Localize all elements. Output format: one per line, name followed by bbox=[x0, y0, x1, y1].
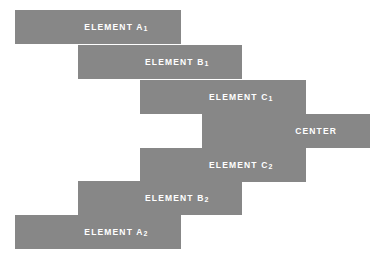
bar-subscript-element-a2: 2 bbox=[144, 227, 149, 237]
bar-label-element-a1: ELEMENT A bbox=[84, 23, 143, 32]
bar-element-a1: ELEMENT A1 bbox=[15, 10, 181, 44]
bar-subscript-value-element-c1: 1 bbox=[269, 95, 274, 102]
bar-element-b1: ELEMENT B1 bbox=[78, 45, 242, 79]
bar-element-a2: ELEMENT A2 bbox=[15, 215, 181, 249]
bar-label-element-c1: ELEMENT C bbox=[209, 93, 268, 102]
bar-subscript-value-element-b2: 2 bbox=[205, 196, 210, 203]
bar-subscript-value-element-a1: 1 bbox=[144, 25, 149, 32]
bar-subscript-element-c2: 2 bbox=[269, 160, 274, 170]
bar-subscript-value-element-b1: 1 bbox=[205, 60, 210, 67]
bar-element-b2: ELEMENT B2 bbox=[78, 181, 242, 215]
bar-label-element-b1: ELEMENT B bbox=[145, 58, 204, 67]
bar-label-element-a2: ELEMENT A bbox=[84, 228, 143, 237]
bar-subscript-element-c1: 1 bbox=[269, 92, 274, 102]
bar-label-element-b2: ELEMENT B bbox=[145, 194, 204, 203]
bar-subscript-element-a1: 1 bbox=[144, 22, 149, 32]
bar-element-c2: ELEMENT C2 bbox=[140, 148, 306, 182]
bar-label-element-c2: ELEMENT C bbox=[209, 161, 268, 170]
bar-subscript-value-element-c2: 2 bbox=[269, 163, 274, 170]
bar-subscript-element-b1: 1 bbox=[205, 57, 210, 67]
bar-element-c1: ELEMENT C1 bbox=[140, 80, 306, 114]
diagram-canvas: ELEMENT A1ELEMENT B1ELEMENT C1CENTERELEM… bbox=[0, 0, 387, 261]
bar-label-center: CENTER bbox=[295, 127, 337, 136]
bar-center: CENTER bbox=[202, 114, 370, 148]
bar-subscript-element-b2: 2 bbox=[205, 193, 210, 203]
bar-subscript-value-element-a2: 2 bbox=[144, 230, 149, 237]
